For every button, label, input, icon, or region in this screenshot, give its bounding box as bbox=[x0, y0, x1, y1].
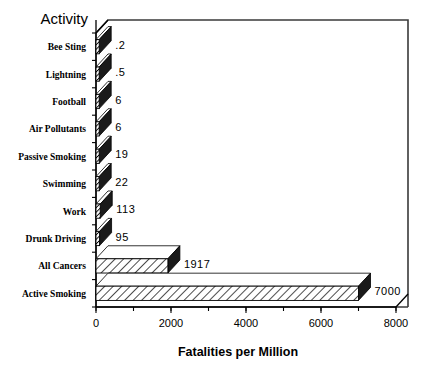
category-label: Active Smoking bbox=[22, 289, 86, 299]
value-label: 1917 bbox=[184, 258, 210, 270]
bar-active-smoking bbox=[96, 273, 371, 300]
value-label: .2 bbox=[115, 39, 125, 51]
value-label: 7000 bbox=[375, 285, 401, 297]
value-label: 6 bbox=[115, 94, 122, 106]
category-label: Work bbox=[63, 207, 87, 217]
x-tick-label: 2000 bbox=[159, 317, 183, 329]
category-label: Drunk Driving bbox=[26, 234, 87, 244]
fatalities-bar-chart: Bee StingLightningFootballAir Pollutants… bbox=[0, 0, 434, 367]
value-label: 113 bbox=[116, 203, 135, 215]
category-label: Air Pollutants bbox=[29, 124, 86, 134]
value-label: .5 bbox=[115, 66, 125, 78]
value-label: 6 bbox=[115, 121, 122, 133]
x-axis-title: Fatalities per Million bbox=[178, 345, 298, 359]
chart-canvas: Bee StingLightningFootballAir Pollutants… bbox=[0, 0, 434, 367]
category-label: Football bbox=[52, 97, 86, 107]
category-label: All Cancers bbox=[38, 261, 86, 271]
value-label: 19 bbox=[115, 148, 128, 160]
value-label: 22 bbox=[115, 176, 128, 188]
category-label: Bee Sting bbox=[48, 42, 87, 52]
x-tick-label: 0 bbox=[93, 317, 99, 329]
category-label: Swimming bbox=[43, 179, 87, 189]
category-label: Passive Smoking bbox=[18, 152, 86, 162]
bar-all-cancers bbox=[96, 246, 180, 273]
x-tick-label: 8000 bbox=[384, 317, 408, 329]
x-tick-label: 4000 bbox=[234, 317, 258, 329]
category-label: Lightning bbox=[46, 70, 86, 80]
y-axis-title: Activity bbox=[40, 10, 88, 27]
value-label: 95 bbox=[116, 231, 129, 243]
x-tick-label: 6000 bbox=[309, 317, 333, 329]
